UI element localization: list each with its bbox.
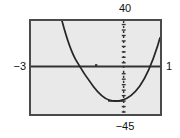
parabola-curve xyxy=(62,21,160,101)
y-max-label: 40 xyxy=(108,2,142,14)
y-min-label: −45 xyxy=(106,120,144,132)
graphing-calculator-figure: 40 −45 −3 1 xyxy=(0,0,180,138)
vertex-flat-segment xyxy=(108,100,122,102)
x-max-label: 1 xyxy=(166,60,178,72)
viewing-window-frame xyxy=(29,19,162,116)
graph-plot-area xyxy=(31,21,160,114)
x-axis-tick-mark xyxy=(95,64,97,66)
x-min-label: −3 xyxy=(2,60,26,72)
